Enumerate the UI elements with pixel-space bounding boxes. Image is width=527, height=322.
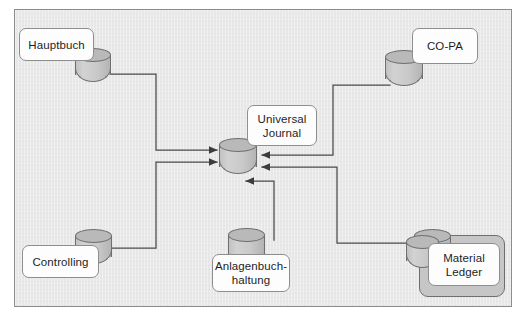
edge-controlling-to-universal-journal	[110, 162, 217, 248]
diagram-root: Hauptbuch Controlling Universal Journal …	[0, 0, 527, 322]
controlling-label[interactable]: Controlling	[22, 245, 99, 278]
hauptbuch-label[interactable]: Hauptbuch	[19, 28, 94, 61]
edge-hauptbuch-to-universal-journal	[110, 74, 217, 150]
universal-journal-label[interactable]: Universal Journal	[247, 105, 317, 146]
edge-material-ledger-to-universal-journal	[262, 167, 412, 243]
anlagenbuchhaltung-label[interactable]: Anlagenbuch- haltung	[212, 254, 290, 292]
material-ledger-label[interactable]: Material Ledger	[428, 243, 500, 286]
co-pa-label[interactable]: CO-PA	[412, 28, 478, 64]
